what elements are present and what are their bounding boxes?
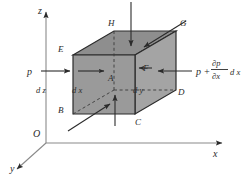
vertex-label-A: A xyxy=(107,73,114,83)
vertex-label-C: C xyxy=(135,117,142,127)
vertex-label-E: E xyxy=(57,44,64,54)
fluid-element-diagram: z x y O H G E F A D B C d z d x d y p p … xyxy=(0,0,246,177)
fluid-element-box xyxy=(73,31,176,114)
figure-canvas: z x y O H G E F A D B C d z d x d y p p … xyxy=(0,0,246,177)
pressure-right-p-plus: p + xyxy=(195,66,210,77)
x-axis-label: x xyxy=(212,148,218,159)
pressure-right-numerator: ∂p xyxy=(212,58,220,68)
vertex-label-H: H xyxy=(107,18,115,28)
y-axis xyxy=(17,143,46,169)
vertex-label-B: B xyxy=(58,105,64,115)
dimension-label-dz: d z xyxy=(36,85,46,95)
z-axis-label: z xyxy=(37,5,42,16)
pressure-label-left: p xyxy=(26,66,32,77)
pressure-right-dx: d x xyxy=(230,67,240,77)
pressure-label-right: p + ∂p ∂x d x xyxy=(195,58,240,81)
dimension-label-dy: d y xyxy=(133,85,143,95)
vertex-label-G: G xyxy=(180,18,187,28)
dimension-label-dx: d x xyxy=(72,85,82,95)
origin-label: O xyxy=(33,128,40,139)
vertex-label-D: D xyxy=(177,87,185,97)
pressure-right-denominator: ∂x xyxy=(212,71,220,81)
y-axis-label: y xyxy=(9,163,15,174)
vertex-label-F: F xyxy=(142,63,149,73)
box-face-front xyxy=(73,55,135,114)
